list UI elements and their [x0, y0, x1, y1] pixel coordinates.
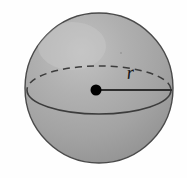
sphere-figure-svg: [0, 0, 187, 178]
sphere-diagram: r: [0, 0, 187, 178]
scan-speck: [120, 52, 122, 54]
center-point-dot: [91, 85, 102, 96]
sphere-highlight: [38, 22, 106, 70]
radius-label: r: [126, 62, 135, 81]
